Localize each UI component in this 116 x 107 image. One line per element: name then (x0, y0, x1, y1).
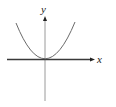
y-axis-arrow-icon (43, 16, 47, 21)
y-axis-label: y (40, 3, 46, 15)
x-axis-arrow-icon (90, 58, 95, 62)
x-axis-label: x (96, 53, 102, 65)
parabola-graph: x y (0, 0, 116, 107)
